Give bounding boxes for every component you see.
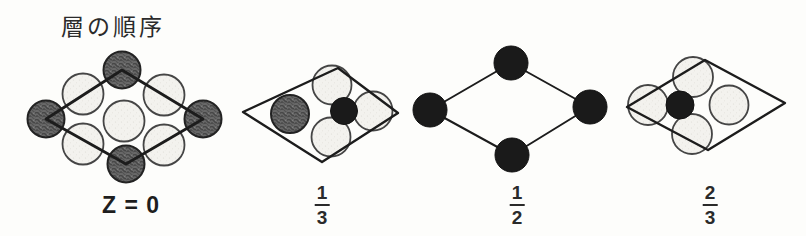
fraction-denominator: 2 [510,204,525,227]
layer-diagram-two-thirds [627,57,785,154]
dark-atom [271,95,309,133]
fraction-numerator: 2 [703,183,718,203]
black-atom [331,98,358,125]
black-atom [413,93,447,127]
fraction-numerator: 1 [315,183,330,203]
layer-label-z0: Z = 0 [96,192,166,219]
light-atom [104,101,145,142]
layer-diagram-one-half [413,46,607,172]
black-atom [494,46,528,80]
light-atom [710,86,749,125]
layer-label-two-thirds: 2 3 [703,183,718,227]
layer-diagram-one-third [243,66,398,163]
light-atom [144,125,185,166]
black-atom [495,138,529,172]
light-atom [354,92,393,131]
layer-diagram-z0 [28,52,222,183]
figure-canvas: 層の順序 Z = 0 1 3 1 2 2 3 [0,0,806,236]
fraction-numerator: 1 [510,183,525,203]
black-atom [666,91,694,119]
fraction-denominator: 3 [703,204,718,227]
black-atom [573,90,607,124]
fraction-denominator: 3 [315,204,330,227]
layer-label-one-half: 1 2 [510,183,525,227]
layer-label-one-third: 1 3 [315,183,330,227]
light-atom [63,124,104,165]
